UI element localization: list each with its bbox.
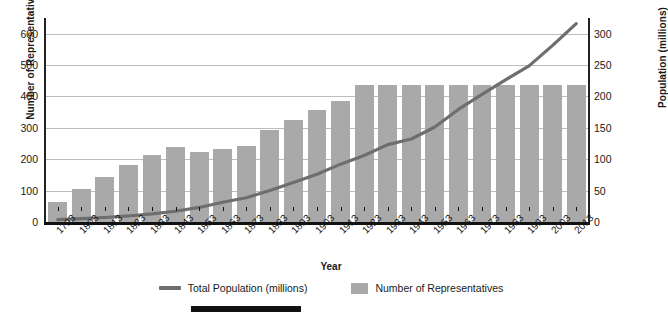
y-tick-label-right: 200 (594, 91, 628, 101)
legend-item: Total Population (millions) (159, 282, 308, 294)
x-tick-mark (176, 207, 177, 211)
y-tick-label-right: 300 (594, 29, 628, 39)
plot-area (46, 18, 588, 222)
x-tick-mark (411, 207, 412, 211)
x-tick-mark (293, 207, 294, 211)
y-axis-line-right (588, 18, 590, 223)
x-tick-mark (105, 207, 106, 211)
x-tick-mark (435, 207, 436, 211)
x-axis-title: Year (0, 261, 662, 272)
legend-label: Total Population (millions) (188, 282, 308, 294)
legend-label: Number of Representatives (375, 282, 503, 294)
legend-line-swatch-icon (159, 286, 181, 290)
x-tick-mark (81, 207, 82, 211)
y-axis-ticks-right: 050100150200250300 (594, 0, 634, 321)
x-tick-mark (553, 207, 554, 211)
x-tick-mark (576, 207, 577, 211)
x-tick-mark (199, 207, 200, 211)
x-tick-mark (506, 207, 507, 211)
x-tick-mark (223, 207, 224, 211)
legend-box-swatch-icon (351, 283, 368, 294)
footer-rule (191, 306, 301, 312)
y-axis-ticks-left: 0100200300400500600 (2, 0, 38, 321)
line-series (46, 18, 588, 222)
x-tick-mark (152, 207, 153, 211)
x-tick-mark (458, 207, 459, 211)
x-tick-mark (317, 207, 318, 211)
y-tick-label-left: 600 (4, 29, 38, 39)
y-tick-label-right: 100 (594, 154, 628, 164)
x-tick-mark (388, 207, 389, 211)
y-tick-label-right: 0 (594, 217, 628, 227)
x-tick-mark (364, 207, 365, 211)
x-tick-mark (128, 207, 129, 211)
x-tick-mark (270, 207, 271, 211)
y-tick-label-left: 0 (4, 217, 38, 227)
y-tick-label-right: 250 (594, 60, 628, 70)
x-tick-mark (246, 207, 247, 211)
y-tick-label-left: 200 (4, 154, 38, 164)
y-tick-label-left: 500 (4, 60, 38, 70)
y-tick-label-right: 50 (594, 186, 628, 196)
y-axis-title-right: Population (millions) (657, 0, 668, 148)
x-tick-mark (482, 207, 483, 211)
x-tick-mark (529, 207, 530, 211)
y-tick-label-left: 100 (4, 186, 38, 196)
x-tick-mark (341, 207, 342, 211)
chart-legend: Total Population (millions)Number of Rep… (0, 282, 662, 294)
y-tick-label-left: 300 (4, 123, 38, 133)
y-tick-label-left: 400 (4, 91, 38, 101)
x-tick-mark (58, 207, 59, 211)
legend-item: Number of Representatives (351, 282, 503, 294)
y-tick-label-right: 150 (594, 123, 628, 133)
